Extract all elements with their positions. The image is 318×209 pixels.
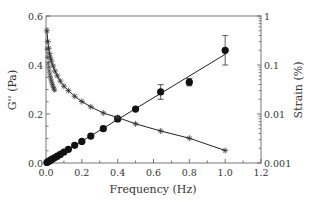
x-tick-label: 0.0 [38, 167, 53, 178]
x-axis-label: Frequency (Hz) [110, 183, 197, 196]
gpp-data-point [78, 138, 85, 145]
y2-tick-label: 0.001 [264, 158, 291, 169]
y2-tick-label: 1 [264, 11, 270, 22]
plot-area [43, 28, 228, 166]
gpp-data-point [65, 146, 72, 153]
strain-data-point [65, 88, 71, 94]
strain-data-point [100, 110, 106, 116]
strain-data-point [115, 114, 121, 120]
gpp-data-point [87, 132, 94, 139]
strain-data-point [186, 135, 192, 141]
strain-data-point [54, 73, 60, 79]
strain-data-point [57, 78, 63, 84]
strain-data-point [222, 147, 228, 153]
gpp-data-point [157, 88, 164, 95]
x-tick-label: 1.0 [218, 167, 233, 178]
y-axis-label: G'' (Pa) [6, 70, 19, 110]
y-tick-label: 0.4 [28, 60, 43, 71]
x-tick-label: 0.6 [146, 167, 161, 178]
y-tick-label: 0.6 [28, 11, 43, 22]
gpp-data-point [100, 125, 107, 132]
y2-tick-label: 0.01 [264, 109, 285, 120]
chart: 0.00.20.40.60.81.01.20.00.20.40.60.0010.… [0, 0, 318, 209]
y-tick-label: 0.2 [28, 109, 43, 120]
strain-data-point [79, 98, 85, 104]
gpp-data-point [71, 142, 78, 149]
y2-axis-label: Strain (%) [292, 62, 305, 119]
strain-data-point [88, 104, 94, 110]
x-tick-label: 0.2 [74, 167, 89, 178]
strain-data-point [44, 28, 50, 34]
gpp-data-point [222, 47, 229, 54]
strain-data-point [52, 88, 57, 93]
x-tick-label: 0.4 [110, 167, 125, 178]
strain-curve [47, 31, 225, 151]
x-tick-label: 0.8 [182, 167, 197, 178]
strain-data-point [158, 128, 164, 134]
strain-data-point [72, 93, 78, 99]
strain-data-point [45, 39, 51, 45]
y-tick-label: 0.0 [28, 158, 43, 169]
y2-tick-label: 0.1 [264, 60, 279, 71]
strain-data-point [61, 83, 67, 89]
plot-frame [46, 16, 261, 163]
strain-data-point [133, 121, 139, 127]
x-tick-label: 1.2 [253, 167, 268, 178]
gpp-data-point [186, 79, 193, 86]
gpp-data-point [132, 106, 139, 113]
strain-data-point [46, 65, 51, 70]
